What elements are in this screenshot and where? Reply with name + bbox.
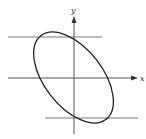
x-axis: x (8, 74, 145, 83)
x-axis-arrow-icon (131, 76, 138, 81)
x-axis-label: x (140, 74, 145, 83)
y-axis-arrow-icon (72, 16, 77, 23)
y-axis-label: y (70, 6, 76, 15)
diagram-canvas: x y (0, 0, 146, 139)
